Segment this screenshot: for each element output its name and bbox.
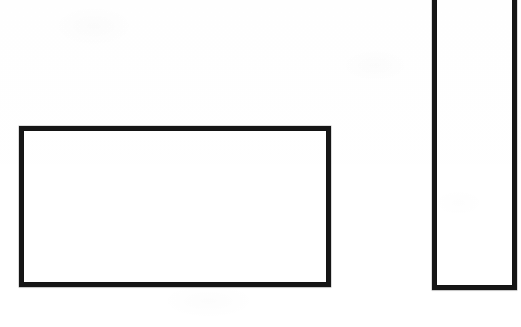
wide-rectangle-shape	[19, 126, 331, 287]
page-canvas	[0, 0, 521, 327]
tall-rectangle-shape	[432, 0, 517, 290]
